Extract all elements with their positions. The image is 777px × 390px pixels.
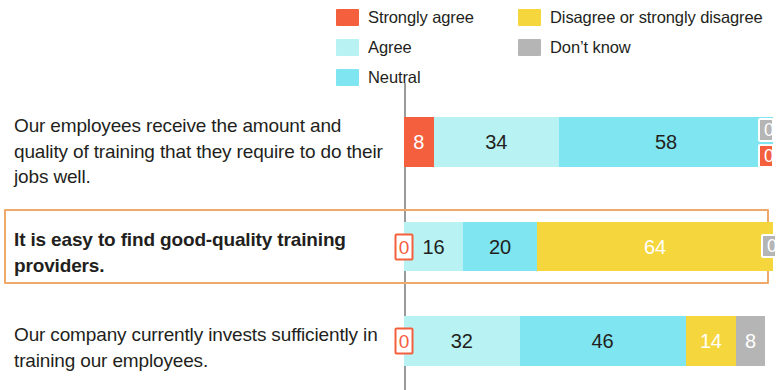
zero-value-chip-strongly_agree: 0 [395,234,414,261]
legend-item-strongly_agree[interactable]: Strongly agree [336,4,474,30]
bar-segment-value: 34 [485,132,507,152]
legend-item-agree[interactable]: Agree [336,34,474,60]
bar-segment-value: 32 [451,331,473,351]
bar-segment-agree[interactable]: 34 [434,117,559,167]
bar-segment-neutral[interactable]: 20 [463,222,537,271]
legend-column-left: Strongly agreeAgreeNeutral [336,4,474,94]
zero-value-chip-label: 0 [399,238,410,257]
clipped-edge-chip-disagree: 0 [758,144,774,168]
chart-row: Our employees receive the amount and qua… [0,104,773,196]
bar-segment-value: 8 [745,331,756,351]
zero-value-chip-strongly_agree: 0 [395,328,414,355]
bar-segment-value: 16 [423,237,445,257]
legend-item-disagree[interactable]: Disagree or strongly disagree [518,4,763,30]
clipped-edge-chip-label: 0 [764,147,774,165]
bar-segment-strongly_agree[interactable]: 8 [404,117,434,167]
bar-segment-value: 20 [489,237,511,257]
legend-swatch-agree [336,39,359,56]
stacked-bar: 3246148 [404,316,765,366]
zero-value-chip-label: 0 [399,332,410,351]
bar-segment-value: 64 [644,237,666,257]
row-label: It is easy to find good-quality training… [14,227,392,278]
legend-column-right: Disagree or strongly disagreeDon’t know [518,4,763,64]
clipped-edge-chip-dont_know: 0 [758,118,774,142]
row-label: Our company currently invests sufficient… [14,322,392,373]
clipped-edge-chip-dont_know: 0 [761,234,777,258]
legend-label-disagree: Disagree or strongly disagree [550,9,763,26]
chart-row: Our company currently invests sufficient… [0,306,773,390]
legend-swatch-disagree [518,9,541,26]
legend-swatch-neutral [336,69,359,86]
clipped-edge-chip-label: 0 [764,121,774,139]
row-label: Our employees receive the amount and qua… [14,113,392,190]
bar-segment-value: 14 [700,331,722,351]
bar-segment-neutral[interactable]: 46 [520,316,686,366]
bar-segment-disagree[interactable]: 64 [537,222,773,271]
bar-segment-disagree[interactable]: 14 [686,316,737,366]
legend-label-dont_know: Don’t know [550,39,631,56]
legend-swatch-strongly_agree [336,9,359,26]
legend-item-dont_know[interactable]: Don’t know [518,34,763,60]
bar-segment-value: 8 [413,132,424,152]
bar-segment-value: 58 [655,132,677,152]
bar-segment-value: 46 [592,331,614,351]
bar-segment-agree[interactable]: 32 [404,316,520,366]
bar-segment-neutral[interactable]: 58 [559,117,773,167]
stacked-bar: 162064 [404,222,773,271]
legend-label-agree: Agree [368,39,412,56]
stacked-bar: 83458 [404,117,773,167]
clipped-edge-chip-label: 0 [767,237,777,255]
legend-label-strongly_agree: Strongly agree [368,9,474,26]
chart-row: It is easy to find good-quality training… [0,209,773,293]
legend-label-neutral: Neutral [368,69,421,86]
chart-legend: Strongly agreeAgreeNeutralDisagree or st… [336,4,773,96]
bar-segment-dont_know[interactable]: 8 [736,316,765,366]
legend-swatch-dont_know [518,39,541,56]
